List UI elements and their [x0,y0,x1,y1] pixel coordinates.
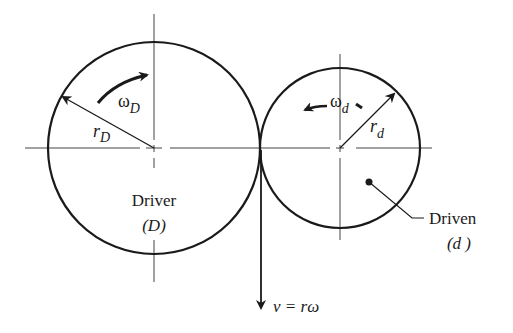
centerlines [25,14,432,282]
driven-leader-line [369,182,424,218]
driven-rotation-arrow-icon [305,106,327,110]
driven-symbol: (d ) [447,234,471,253]
driver-radius-label: rD [93,121,110,145]
driven-rotation-tail [356,104,362,108]
driven-radius-label: rd [370,116,385,141]
driver-symbol: (D) [142,216,166,235]
driven-label: Driven [429,209,477,228]
velocity-label: v = rω [273,297,319,316]
friction-drive-diagram: ωD rD Driver (D) ωd rd Driven (d ) v = r… [0,0,513,333]
diagram-canvas: ωD rD Driver (D) ωd rd Driven (d ) v = r… [0,0,513,333]
driver-label: Driver [132,191,177,210]
driver-omega-label: ωD [118,91,140,116]
